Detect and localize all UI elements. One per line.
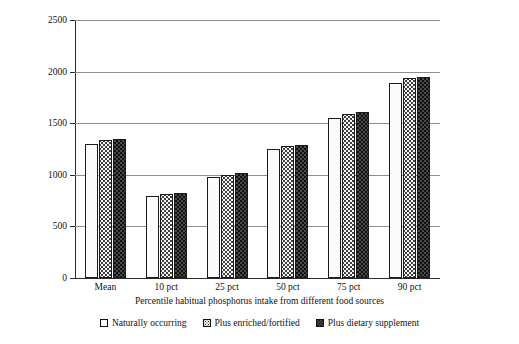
y-tick-label-2500: 2500 [21, 20, 67, 21]
dotted-square-icon [203, 319, 211, 327]
bar [267, 149, 280, 278]
plot-area: 05001000150020002500 Mean10 pct25 pct50 … [75, 20, 440, 278]
y-tick-label-1000: 1000 [21, 175, 67, 176]
bar-group [328, 20, 369, 278]
legend-item: Plus dietary supplement [316, 318, 419, 328]
y-tick-mark-0 [70, 278, 75, 279]
y-tick-mark-2000 [70, 72, 75, 73]
bar [403, 78, 416, 278]
gridline-2000 [75, 72, 440, 73]
legend-item: Plus enriched/fortified [203, 318, 300, 328]
bar [207, 177, 220, 278]
gridline-500 [75, 226, 440, 227]
bar [235, 173, 248, 278]
bar [174, 193, 187, 278]
bar [146, 196, 159, 278]
bar [85, 144, 98, 278]
bar-group [389, 20, 430, 278]
bar-group [267, 20, 308, 278]
chart-figure: 05001000150020002500 Mean10 pct25 pct50 … [0, 0, 519, 344]
y-tick-mark-1000 [70, 175, 75, 176]
x-tick-label: 90 pct [375, 282, 445, 292]
bar [281, 146, 294, 278]
y-axis-line [75, 20, 76, 278]
bar [342, 114, 355, 278]
bar [356, 112, 369, 278]
x-axis-line [75, 278, 440, 279]
legend-item: Naturally occurring [100, 318, 187, 328]
y-tick-label-2000: 2000 [21, 72, 67, 73]
x-tick-label: Mean [70, 282, 140, 292]
bar [417, 77, 430, 278]
y-tick-label-0: 0 [21, 278, 67, 279]
y-tick-mark-2500 [70, 20, 75, 21]
x-tick-label: 75 pct [314, 282, 384, 292]
bar [389, 83, 402, 278]
chart-legend: Naturally occurringPlus enriched/fortifi… [0, 318, 519, 328]
bar [328, 118, 341, 278]
legend-label: Plus enriched/fortified [215, 318, 300, 328]
bar-group [207, 20, 248, 278]
y-tick-mark-1500 [70, 123, 75, 124]
gridline-1000 [75, 175, 440, 176]
x-tick-label: 10 pct [131, 282, 201, 292]
x-tick-label: 25 pct [192, 282, 262, 292]
y-tick-mark-500 [70, 226, 75, 227]
gridline-1500 [75, 123, 440, 124]
bar-group [85, 20, 126, 278]
bar [160, 194, 173, 278]
y-tick-label-500: 500 [21, 226, 67, 227]
gridline-2500 [75, 20, 440, 21]
legend-label: Plus dietary supplement [328, 318, 419, 328]
x-axis-title: Percentile habitual phosphorus intake fr… [0, 296, 519, 306]
bar [221, 175, 234, 278]
bar [113, 139, 126, 278]
bar-group [146, 20, 187, 278]
bar [99, 140, 112, 278]
legend-label: Naturally occurring [112, 318, 187, 328]
empty-square-icon [100, 319, 108, 327]
bar [295, 145, 308, 278]
y-tick-label-1500: 1500 [21, 123, 67, 124]
checkered-square-icon [316, 319, 324, 327]
x-tick-label: 50 pct [253, 282, 323, 292]
